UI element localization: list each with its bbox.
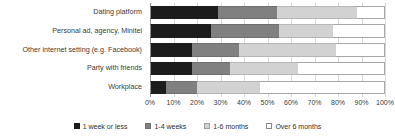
stacked-bar-chart: Dating platform Personal ad, agency, Min…: [0, 0, 395, 138]
bar-row: [150, 78, 385, 97]
x-axis-tick-label: 60%: [284, 99, 298, 106]
bar-track: [150, 62, 385, 75]
category-label: Workplace: [0, 78, 146, 97]
bar-segment: [218, 6, 277, 19]
plot-area: [150, 3, 385, 97]
bar-segment: [150, 43, 192, 56]
bar-segment: [336, 43, 385, 56]
legend-item[interactable]: 1-6 months: [204, 123, 248, 130]
bar-segment: [150, 6, 218, 19]
legend-label: Over 6 months: [275, 123, 321, 130]
legend-swatch-icon: [204, 123, 210, 129]
x-axis-tick-label: 10%: [166, 99, 180, 106]
bar-row: [150, 41, 385, 60]
bar-segment: [230, 62, 298, 75]
plot-wrapper: Dating platform Personal ad, agency, Min…: [0, 0, 395, 97]
bar-series-container: [150, 3, 385, 97]
gridline: [385, 3, 386, 97]
category-label: Personal ad, agency, Minitel: [0, 22, 146, 41]
x-axis-tick-label: 40%: [237, 99, 251, 106]
category-label: Dating platform: [0, 3, 146, 22]
x-axis-tick-label: 20%: [190, 99, 204, 106]
x-axis: 0%10%20%30%40%50%60%70%80%90%100%: [150, 97, 385, 111]
bar-segment: [239, 43, 335, 56]
bar-segment: [192, 43, 239, 56]
bar-track: [150, 43, 385, 56]
bar-segment: [166, 81, 197, 94]
bar-segment: [150, 62, 192, 75]
bar-track: [150, 24, 385, 37]
category-label: Other internet setting (e.g. Facebook): [0, 41, 146, 60]
legend-item[interactable]: 1 week or less: [74, 123, 128, 130]
bar-track: [150, 81, 385, 94]
bar-row: [150, 22, 385, 41]
category-axis-labels: Dating platform Personal ad, agency, Min…: [0, 3, 146, 97]
x-axis-tick-label: 80%: [331, 99, 345, 106]
legend-label: 1-6 months: [213, 123, 248, 130]
bar-segment: [150, 81, 166, 94]
bar-segment: [150, 24, 211, 37]
x-axis-tick-label: 0%: [145, 99, 155, 106]
bar-segment: [197, 81, 260, 94]
legend-swatch-icon: [266, 123, 272, 129]
x-axis-tick-label: 50%: [260, 99, 274, 106]
x-axis-tick-label: 100%: [376, 99, 394, 106]
bar-row: [150, 59, 385, 78]
legend-item[interactable]: Over 6 months: [266, 123, 321, 130]
legend-swatch-icon: [145, 123, 151, 129]
x-axis-tick-label: 30%: [213, 99, 227, 106]
bar-segment: [260, 81, 385, 94]
category-label: Party with friends: [0, 59, 146, 78]
legend-item[interactable]: 1-4 weeks: [145, 123, 186, 130]
x-axis-tick-label: 90%: [354, 99, 368, 106]
bar-segment: [357, 6, 385, 19]
bar-segment: [298, 62, 385, 75]
bar-row: [150, 3, 385, 22]
chart-legend: 1 week or less1-4 weeks1-6 monthsOver 6 …: [0, 119, 395, 133]
bar-segment: [192, 62, 230, 75]
legend-label: 1-4 weeks: [154, 123, 186, 130]
legend-swatch-icon: [74, 123, 80, 129]
bar-segment: [277, 6, 357, 19]
bar-track: [150, 6, 385, 19]
bar-segment: [211, 24, 279, 37]
bar-segment: [333, 24, 385, 37]
bar-segment: [279, 24, 333, 37]
x-axis-tick-label: 70%: [307, 99, 321, 106]
legend-label: 1 week or less: [83, 123, 128, 130]
